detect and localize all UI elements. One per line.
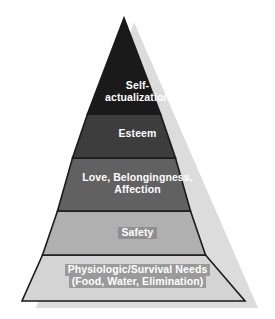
pyramid-level-safety <box>43 211 206 255</box>
pyramid-level-love-belongingness-affection <box>58 158 191 211</box>
maslow-pyramid-figure: Self- actualization Esteem Love, Belongi… <box>0 0 275 319</box>
pyramid-graphic <box>0 0 275 319</box>
pyramid-level-esteem <box>73 114 176 158</box>
pyramid-level-physiologic-survival-needs <box>22 255 245 301</box>
